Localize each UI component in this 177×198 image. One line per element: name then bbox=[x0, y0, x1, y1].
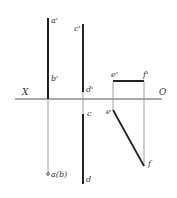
label-e: e bbox=[106, 107, 111, 116]
label-c-prime: c' bbox=[74, 24, 81, 33]
label-b-prime: b' bbox=[51, 74, 58, 83]
point-ab bbox=[47, 173, 50, 176]
label-ab: a(b) bbox=[51, 170, 67, 179]
label-d: d bbox=[86, 175, 91, 184]
projection-diagram: X O a' b' c' d' c d a(b) e' f' e f bbox=[0, 0, 177, 198]
label-e-prime: e' bbox=[111, 70, 118, 79]
label-a-prime: a' bbox=[51, 16, 58, 25]
label-f-prime: f' bbox=[142, 70, 148, 79]
label-f: f bbox=[147, 159, 153, 168]
label-d-prime: d' bbox=[86, 85, 93, 94]
axis-label-x: X bbox=[21, 87, 29, 97]
line-ef bbox=[113, 110, 144, 166]
label-c: c bbox=[87, 109, 92, 118]
axis-label-o: O bbox=[159, 87, 167, 97]
